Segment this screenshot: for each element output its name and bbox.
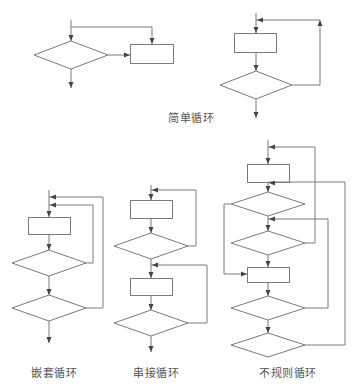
arrowhead-icon <box>149 227 154 233</box>
irregular-loop <box>224 140 345 357</box>
flow-line <box>71 27 152 44</box>
arrowhead-icon <box>257 18 263 23</box>
process-box <box>248 165 290 183</box>
arrowhead-icon <box>266 261 271 267</box>
simple-loop-until <box>220 13 323 118</box>
process-box <box>29 218 71 235</box>
arrowhead-icon <box>149 346 154 352</box>
process-box <box>131 45 174 64</box>
arrowhead-icon <box>47 289 52 295</box>
arrowhead-icon <box>152 263 158 268</box>
flow-line <box>151 265 207 323</box>
arrowhead-icon <box>149 272 154 278</box>
decision-diamond <box>12 295 86 321</box>
arrowhead-icon <box>241 272 247 277</box>
label-series-loop: 串接循环 <box>133 364 179 380</box>
series-loop <box>114 185 207 352</box>
arrowhead-icon <box>124 53 130 58</box>
arrowhead-icon <box>69 82 74 88</box>
decision-diamond <box>231 296 305 320</box>
process-box <box>248 268 290 283</box>
arrowhead-icon <box>47 211 52 217</box>
arrowhead-icon <box>269 145 275 150</box>
flow-line <box>268 219 328 308</box>
arrowhead-icon <box>266 290 271 296</box>
arrowhead-icon <box>318 20 323 26</box>
decision-diamond <box>231 231 305 255</box>
flow-line <box>268 147 315 243</box>
process-box <box>235 34 277 53</box>
arrowhead-icon <box>50 203 56 208</box>
flow-line <box>268 182 345 345</box>
arrowhead-icon <box>254 112 259 118</box>
arrowhead-icon <box>254 65 259 71</box>
arrowhead-icon <box>269 181 275 186</box>
arrowhead-icon <box>47 244 52 250</box>
arrowhead-icon <box>150 38 155 44</box>
arrowhead-icon <box>149 304 154 310</box>
arrowhead-icon <box>69 35 74 41</box>
label-nested-loop: 嵌套循环 <box>31 364 77 380</box>
process-box <box>131 201 173 219</box>
loop-structures-diagram <box>0 0 360 389</box>
label-simple-loop: 简单循环 <box>168 109 214 125</box>
arrowhead-icon <box>269 217 275 222</box>
decision-diamond <box>231 192 305 216</box>
arrowhead-icon <box>50 195 56 200</box>
label-irregular-loop: 不规则循环 <box>259 364 317 380</box>
arrowhead-icon <box>47 337 52 343</box>
process-box <box>131 279 173 296</box>
decision-diamond <box>114 233 188 259</box>
decision-diamond <box>34 41 108 69</box>
decision-diamond <box>12 250 86 276</box>
arrowhead-icon <box>266 186 271 192</box>
decision-diamond <box>220 71 292 99</box>
decision-diamond <box>114 310 188 336</box>
arrowhead-icon <box>266 327 271 333</box>
nested-loop <box>12 190 103 343</box>
arrowhead-icon <box>149 194 154 200</box>
arrowhead-icon <box>266 158 271 164</box>
decision-diamond <box>231 333 305 357</box>
arrowhead-icon <box>266 225 271 231</box>
simple-loop-while <box>34 20 174 88</box>
arrowhead-icon <box>254 27 259 33</box>
arrowhead-icon <box>152 188 158 193</box>
